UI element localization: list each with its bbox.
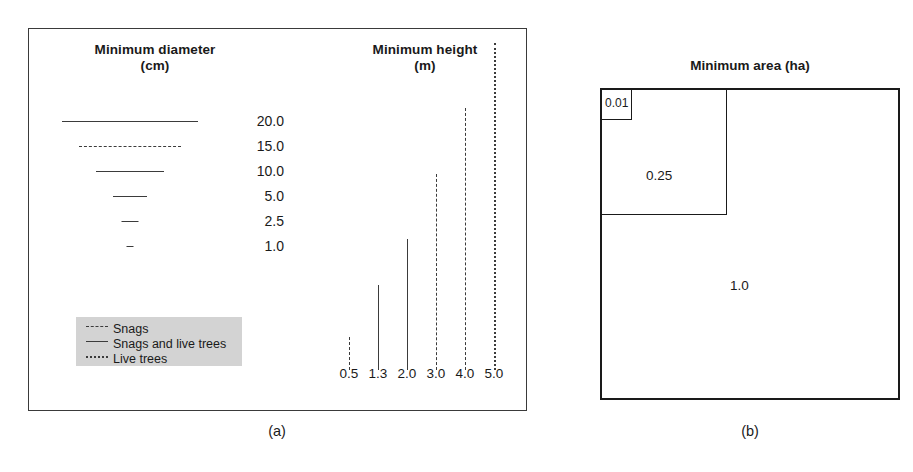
- diameter-line: [122, 221, 139, 222]
- height-bars: [330, 30, 520, 370]
- height-bar: [407, 239, 408, 370]
- panel-a-caption: (a): [237, 423, 317, 439]
- diameter-title-line1: Minimum diameter: [95, 42, 216, 57]
- height-bar: [494, 43, 496, 370]
- dotted-line-icon: [86, 356, 108, 358]
- diameter-row: 5.0: [40, 185, 270, 210]
- diameter-rows: 20.0 15.0 10.0 5.0 2.5: [40, 110, 270, 260]
- area-label-025: 0.25: [646, 168, 672, 183]
- diameter-row: 20.0: [40, 110, 270, 135]
- height-axis-labels: 0.5 1.3 2.0 3.0 4.0 5.0: [330, 366, 520, 384]
- legend: Snags Snags and live trees Live trees: [76, 317, 242, 366]
- height-axis-label: 4.0: [450, 366, 480, 381]
- height-bar: [436, 174, 437, 370]
- dashed-line-icon: [86, 326, 108, 327]
- figure-canvas: Minimum diameter (cm) Minimum height (m)…: [0, 0, 913, 472]
- diameter-value: 20.0: [228, 113, 284, 129]
- diameter-line: [79, 146, 181, 147]
- height-bar: [378, 285, 379, 370]
- legend-item-label: Snags: [108, 322, 148, 336]
- diameter-row: 2.5: [40, 210, 270, 235]
- diameter-line: [62, 121, 198, 122]
- diameter-value: 1.0: [228, 238, 284, 254]
- diameter-title: Minimum diameter (cm): [60, 42, 250, 74]
- height-bar: [465, 108, 466, 370]
- legend-item: Snags: [86, 321, 148, 337]
- legend-item: Snags and live trees: [86, 336, 226, 352]
- legend-item-label: Live trees: [108, 352, 167, 366]
- diameter-value: 5.0: [228, 188, 284, 204]
- diameter-line-wrap: [40, 135, 220, 160]
- panel-b-caption: (b): [710, 423, 790, 439]
- diameter-line-wrap: [40, 210, 220, 235]
- diameter-line-wrap: [40, 110, 220, 135]
- height-axis-label: 5.0: [479, 366, 509, 381]
- legend-item-label: Snags and live trees: [108, 337, 226, 351]
- diameter-line: [113, 196, 147, 197]
- diameter-line: [96, 171, 164, 172]
- height-axis-label: 0.5: [334, 366, 364, 381]
- area-title: Minimum area (ha): [620, 58, 880, 74]
- diameter-line-wrap: [40, 235, 220, 260]
- diameter-row: 15.0: [40, 135, 270, 160]
- diameter-line-wrap: [40, 185, 220, 210]
- diameter-value: 10.0: [228, 163, 284, 179]
- diameter-row: 1.0: [40, 235, 270, 260]
- diameter-value: 2.5: [228, 213, 284, 229]
- height-axis-label: 2.0: [392, 366, 422, 381]
- legend-item: Live trees: [86, 351, 167, 367]
- diameter-title-line2: (cm): [141, 58, 170, 73]
- panel-b: 0.01 0.25 1.0: [600, 88, 900, 400]
- diameter-line: [127, 246, 134, 247]
- height-axis-label: 1.3: [363, 366, 393, 381]
- diameter-value: 15.0: [228, 138, 284, 154]
- area-label-100: 1.0: [730, 278, 749, 293]
- area-label-001: 0.01: [605, 96, 628, 110]
- height-axis-label: 3.0: [421, 366, 451, 381]
- diameter-line-wrap: [40, 160, 220, 185]
- solid-line-icon: [86, 341, 108, 342]
- diameter-row: 10.0: [40, 160, 270, 185]
